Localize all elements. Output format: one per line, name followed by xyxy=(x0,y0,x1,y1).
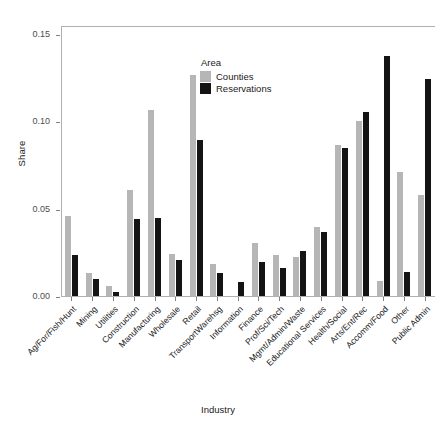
bar-counties xyxy=(273,255,279,296)
x-tick-mark xyxy=(92,297,93,301)
bar-counties xyxy=(210,264,216,296)
bar-reservations xyxy=(113,292,119,296)
bar-counties xyxy=(106,286,112,296)
y-tick-label: 0.05 xyxy=(16,205,50,214)
bar-counties xyxy=(65,216,71,296)
bar-counties xyxy=(190,75,196,296)
bar-reservations xyxy=(176,260,182,296)
bar-reservations xyxy=(300,251,306,296)
legend-label: Counties xyxy=(216,71,254,82)
bar-group xyxy=(417,27,434,296)
x-tick-mark xyxy=(238,297,239,301)
y-tick-mark xyxy=(56,210,60,211)
bar-reservations xyxy=(342,148,348,296)
legend-items: CountiesReservations xyxy=(200,71,320,94)
y-tick-mark xyxy=(56,35,60,36)
x-tick-mark xyxy=(196,297,197,301)
x-tick-mark xyxy=(362,297,363,301)
x-tick-mark xyxy=(113,297,114,301)
x-tick-mark xyxy=(425,297,426,301)
bar-reservations xyxy=(238,282,244,296)
x-tick-mark xyxy=(383,297,384,301)
bar-counties xyxy=(86,273,92,296)
x-tick-mark xyxy=(300,297,301,301)
x-tick-mark xyxy=(175,297,176,301)
bar-reservations xyxy=(217,273,223,296)
bar-group xyxy=(376,27,393,296)
bar-reservations xyxy=(197,140,203,296)
bar-reservations xyxy=(259,262,265,296)
bar-group xyxy=(168,27,185,296)
x-tick-mark xyxy=(342,297,343,301)
x-tick-mark xyxy=(279,297,280,301)
bar-chart-figure: Share 0.000.050.100.15 Area CountiesRese… xyxy=(0,0,436,443)
legend: Area CountiesReservations xyxy=(200,57,320,95)
bar-group xyxy=(396,27,413,296)
bar-counties xyxy=(377,281,383,296)
bar-reservations xyxy=(72,255,78,296)
bar-reservations xyxy=(384,56,390,296)
x-tick-mark xyxy=(321,297,322,301)
bar-counties xyxy=(293,257,299,296)
legend-item: Reservations xyxy=(200,83,320,94)
bar-group xyxy=(334,27,351,296)
legend-item: Counties xyxy=(200,71,320,82)
bar-counties xyxy=(356,121,362,296)
bar-counties xyxy=(127,190,133,296)
x-tick-mark xyxy=(217,297,218,301)
y-tick-label: 0.10 xyxy=(16,117,50,126)
x-tick-mark xyxy=(71,297,72,301)
bar-group xyxy=(64,27,81,296)
bar-reservations xyxy=(93,279,99,296)
x-tick-mark xyxy=(134,297,135,301)
legend-title: Area xyxy=(200,57,320,68)
bar-counties xyxy=(397,172,403,296)
bar-group xyxy=(105,27,122,296)
x-tick-mark xyxy=(155,297,156,301)
bar-group xyxy=(355,27,372,296)
bar-reservations xyxy=(155,218,161,296)
legend-swatch-reservations xyxy=(200,83,211,94)
bar-group xyxy=(126,27,143,296)
bar-counties xyxy=(169,254,175,296)
bar-reservations xyxy=(134,219,140,296)
y-tick-mark xyxy=(56,122,60,123)
bar-reservations xyxy=(404,272,410,296)
legend-label: Reservations xyxy=(216,83,271,94)
y-tick-label: 0.15 xyxy=(16,30,50,39)
bar-reservations xyxy=(280,268,286,296)
bar-counties xyxy=(148,110,154,296)
bar-reservations xyxy=(321,232,327,296)
bar-reservations xyxy=(363,112,369,296)
bar-counties xyxy=(335,145,341,296)
bar-group xyxy=(85,27,102,296)
y-tick-label: 0.00 xyxy=(16,292,50,301)
x-axis-title: Industry xyxy=(0,404,436,415)
bar-counties xyxy=(252,243,258,296)
bar-reservations xyxy=(425,79,431,296)
bar-counties xyxy=(418,195,424,296)
x-tick-mark xyxy=(404,297,405,301)
y-axis-ticks: 0.000.050.100.15 xyxy=(12,0,60,443)
bar-counties xyxy=(314,227,320,296)
x-tick-mark xyxy=(258,297,259,301)
legend-swatch-counties xyxy=(200,71,211,82)
y-tick-mark xyxy=(56,297,60,298)
bar-group xyxy=(147,27,164,296)
